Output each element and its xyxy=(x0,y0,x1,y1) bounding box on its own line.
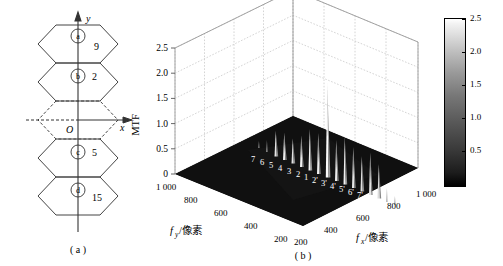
y-axis-title: f y /像素 xyxy=(170,224,202,239)
y-tick-200: 200 xyxy=(274,234,288,244)
x-axis-title: f x /像素 xyxy=(356,231,388,246)
axis-y-label: y xyxy=(85,13,91,24)
axis-x-label: x xyxy=(119,122,125,133)
peak-label-3p: 3' xyxy=(321,178,327,188)
colorbar-tick-mark-1p0 xyxy=(462,118,466,119)
x-tick-600: 600 xyxy=(356,213,370,223)
z-axis-title: MTF xyxy=(130,114,141,136)
peak-label-6: 6 xyxy=(260,157,264,167)
x-tick-200: 200 xyxy=(294,237,308,247)
panel-b-caption: ( b ) xyxy=(295,250,312,262)
axis-y xyxy=(75,12,81,232)
colorbar-tick-2p0: 2.0 xyxy=(470,46,481,56)
figure-root: a b c d 9 2 5 15 y x O ( a ) xyxy=(0,0,503,266)
peak-label-5: 5 xyxy=(269,160,273,170)
peak-label-7p: 7' xyxy=(357,190,363,200)
peak-label-4p: 4' xyxy=(330,181,336,191)
hex-value-a: 9 xyxy=(94,41,99,52)
panel-b-mtf-3d-plot: 2.5 2.0 1.5 1.0 0.5 0 MTF 1 000 800 600 … xyxy=(128,0,438,266)
hex-value-d: 15 xyxy=(92,192,102,203)
peak-label-2: 2 xyxy=(296,169,300,179)
panel-a-caption: ( a ) xyxy=(70,244,86,256)
x-tick-800: 800 xyxy=(387,201,401,211)
hex-value-b: 2 xyxy=(92,71,97,82)
colorbar-gradient xyxy=(444,18,466,187)
x-axis-title-rest: /像素 xyxy=(365,231,388,243)
z-tick-0: 0 xyxy=(163,169,168,179)
hex-tag-c: c xyxy=(76,148,80,157)
colorbar-tick-2p5: 2.5 xyxy=(470,13,481,23)
colorbar-tick-mark-0p5 xyxy=(462,151,466,152)
peak-label-1: 1 xyxy=(304,172,308,182)
origin-label: O xyxy=(66,124,73,135)
peak-label-2p: 2' xyxy=(312,175,318,185)
z-tick-0p5: 0.5 xyxy=(156,144,168,154)
hex-tag-b: b xyxy=(76,72,80,81)
peak-label-6p: 6' xyxy=(348,187,354,197)
colorbar-tick-mark-2p0 xyxy=(462,52,466,53)
x-tick-400: 400 xyxy=(324,225,338,235)
hex-value-c: 5 xyxy=(92,147,97,158)
y-tick-800: 800 xyxy=(184,195,198,205)
z-tick-1p5: 1.5 xyxy=(156,93,168,103)
z-tick-1p0: 1.0 xyxy=(156,119,168,129)
hex-tag-a: a xyxy=(76,32,80,41)
y-axis-title-rest: /像素 xyxy=(179,224,202,236)
colorbar-tick-0p5: 0.5 xyxy=(470,145,481,155)
colorbar-tick-mark-2p5 xyxy=(462,19,466,20)
panel-b-svg: 2.5 2.0 1.5 1.0 0.5 0 MTF 1 000 800 600 … xyxy=(128,0,438,266)
y-tick-1000: 1 000 xyxy=(156,182,177,192)
colorbar-tick-1p5: 1.5 xyxy=(470,79,481,89)
peak-label-7: 7 xyxy=(251,154,255,164)
colorbar-group: 2.5 2.0 1.5 1.0 0.5 xyxy=(438,0,503,266)
x-tick-1000: 1 000 xyxy=(416,189,437,199)
z-tick-2p5: 2.5 xyxy=(156,43,168,53)
colorbar-tick-mark-1p5 xyxy=(462,85,466,86)
peak-label-5p: 5' xyxy=(339,184,345,194)
hex-tag-d: d xyxy=(76,186,80,195)
y-tick-600: 600 xyxy=(214,208,228,218)
colorbar-tick-1p0: 1.0 xyxy=(470,112,481,122)
peak-label-3: 3 xyxy=(287,166,291,176)
z-axis-ticks xyxy=(171,48,175,174)
y-tick-400: 400 xyxy=(244,221,258,231)
z-tick-2p0: 2.0 xyxy=(156,68,168,78)
